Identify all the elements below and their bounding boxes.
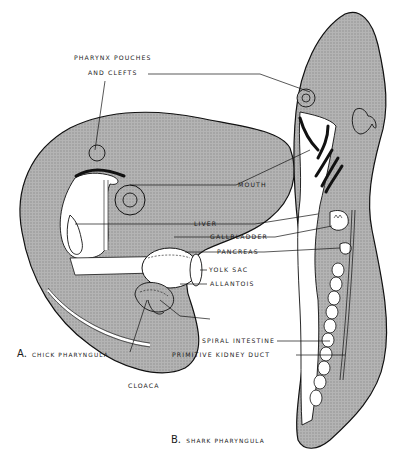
shark-eye-outer [297,89,315,107]
caption-a-text: CHICK PHARYNGULA [32,352,109,358]
caption-panel-b: B. SHARK PHARYNGULA [171,428,265,447]
caption-panel-a: A. CHICK PHARYNGULA [17,342,109,361]
label-mouth: MOUTH [238,182,267,188]
label-gallbladder: GALLBLADDER [210,234,268,240]
label-spiral-intestine: SPIRAL INTESTINE [202,338,275,344]
label-liver: LIVER [194,221,217,227]
caption-b-text: SHARK PHARYNGULA [186,438,265,444]
label-primitive-kidney-duct: PRIMITIVE KIDNEY DUCT [172,352,270,358]
caption-a-letter: A. [17,348,27,359]
embryo-comparison-diagram [0,0,400,476]
label-pharynx-pouches: PHARYNX POUCHES [74,55,152,61]
chick-eye-outer [115,185,145,215]
shark-pancreas [340,243,351,254]
label-allantois: ALLANTOIS [210,281,254,287]
label-pancreas: PANCREAS [217,249,259,255]
label-cloaca: CLOACA [128,383,160,389]
label-and-clefts: AND CLEFTS [88,70,137,76]
chick-embryo [20,112,294,372]
caption-b-letter: B. [171,434,181,445]
label-yolk-sac: YOLK SAC [209,267,248,273]
shark-liver [330,211,348,231]
chick-body-outline [20,112,294,372]
chick-otic-vesicle [89,145,105,161]
